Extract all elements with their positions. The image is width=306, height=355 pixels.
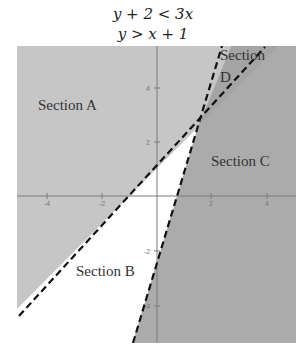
- section-d-label-line2: D: [220, 69, 231, 85]
- section-b-label: Section B: [76, 263, 135, 279]
- x-tick-neg4: -4: [44, 200, 50, 207]
- section-c-label: Section C: [211, 153, 270, 169]
- y-tick-neg2: -2: [144, 248, 150, 255]
- y-tick-4: 4: [146, 85, 150, 92]
- x-tick-2: 2: [209, 200, 213, 207]
- x-tick-4: 4: [265, 200, 269, 207]
- section-a-label: Section A: [38, 97, 97, 113]
- y-tick-2: 2: [146, 139, 150, 146]
- x-tick-neg2: -2: [99, 200, 105, 207]
- y-tick-neg4: -4: [144, 303, 150, 310]
- inequality-graph: -4 -2 2 4 4 2 -2 -4 Section A Section B …: [0, 0, 306, 355]
- section-d-label-line1: Section: [220, 47, 265, 63]
